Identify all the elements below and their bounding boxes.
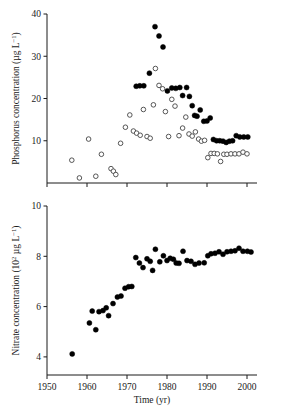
data-point-filled-circle	[165, 88, 170, 93]
x-tick-label: 1970	[118, 382, 137, 392]
data-point-open-circle	[123, 125, 128, 130]
y-tick-label: 8	[36, 252, 41, 262]
phosphorus-panel: 10203040Phosphorus concentration (µg L−1…	[10, 9, 257, 187]
data-point-filled-circle	[111, 301, 116, 306]
data-point-filled-circle	[150, 268, 155, 273]
data-point-filled-circle	[104, 305, 109, 310]
data-point-filled-circle	[141, 83, 146, 88]
y-tick-label: 10	[32, 136, 42, 146]
data-point-filled-circle	[197, 261, 202, 266]
data-point-open-circle	[218, 159, 223, 164]
y-axis-title-mid: µg L	[11, 236, 21, 257]
data-point-open-circle	[138, 133, 143, 138]
data-point-open-circle	[177, 133, 182, 138]
data-point-filled-circle	[148, 259, 153, 264]
data-point-filled-circle	[106, 313, 111, 318]
series-open-circle	[70, 66, 250, 180]
data-point-filled-circle	[208, 115, 213, 120]
data-point-filled-circle	[87, 320, 92, 325]
y-tick-label: 20	[32, 94, 42, 104]
data-point-open-circle	[70, 158, 75, 163]
data-point-open-circle	[190, 134, 195, 139]
data-point-filled-circle	[119, 294, 124, 299]
data-point-open-circle	[163, 109, 168, 114]
data-point-open-circle	[193, 130, 198, 135]
data-point-filled-circle	[202, 260, 207, 265]
data-point-open-circle	[170, 97, 175, 102]
data-point-filled-circle	[177, 261, 182, 266]
data-point-open-circle	[86, 137, 91, 142]
y-axis-title-tail: )	[11, 226, 22, 229]
y-axis-title-tail: )	[11, 32, 22, 35]
data-point-filled-circle	[230, 138, 235, 143]
x-axis-title: Time (yr)	[134, 395, 170, 406]
data-point-filled-circle	[184, 85, 189, 90]
data-point-open-circle	[215, 152, 220, 157]
data-point-filled-circle	[181, 249, 186, 254]
x-tick-label: 2000	[238, 382, 257, 392]
data-point-open-circle	[128, 113, 133, 118]
data-point-open-circle	[173, 104, 178, 109]
data-point-open-circle	[180, 126, 185, 131]
y-axis-title: Nitrate concentration (102 µg L−1)	[10, 226, 22, 356]
data-point-filled-circle	[187, 94, 192, 99]
two-panel-scatter-figure: 10203040Phosphorus concentration (µg L−1…	[0, 0, 286, 420]
y-tick-label: 6	[36, 302, 41, 312]
data-point-filled-circle	[161, 44, 166, 49]
data-point-filled-circle	[180, 93, 185, 98]
data-point-open-circle	[148, 136, 153, 141]
data-point-open-circle	[206, 155, 211, 160]
data-point-filled-circle	[141, 265, 146, 270]
data-point-filled-circle	[129, 284, 134, 289]
x-tick-label: 1950	[38, 382, 57, 392]
data-point-filled-circle	[157, 33, 162, 38]
data-point-filled-circle	[90, 309, 95, 314]
data-point-open-circle	[245, 152, 250, 157]
data-point-filled-circle	[137, 261, 142, 266]
y-axis-title: Phosphorus concentration (µg L−1)	[10, 32, 22, 165]
series-filled-circle	[70, 246, 254, 357]
y-tick-label: 30	[32, 52, 42, 62]
data-point-open-circle	[94, 174, 99, 179]
data-point-open-circle	[160, 86, 165, 91]
data-point-filled-circle	[133, 255, 138, 260]
y-axis-title-superscript: −1	[10, 35, 17, 42]
data-point-open-circle	[202, 138, 207, 143]
data-point-filled-circle	[70, 351, 75, 356]
data-point-open-circle	[151, 103, 156, 108]
nitrate-panel: 46810195019601970198019902000Nitrate con…	[10, 201, 257, 406]
data-point-open-circle	[166, 134, 171, 139]
data-point-filled-circle	[153, 247, 158, 252]
data-point-open-circle	[184, 115, 189, 120]
x-tick-label: 1960	[78, 382, 97, 392]
data-point-filled-circle	[195, 114, 200, 119]
x-tick-label: 1990	[198, 382, 217, 392]
series-filled-circle	[134, 24, 251, 145]
data-point-filled-circle	[157, 259, 162, 264]
y-tick-label: 40	[32, 9, 42, 19]
data-point-open-circle	[77, 176, 82, 181]
y-axis-title-lead: Nitrate concentration (10	[11, 260, 22, 356]
data-point-filled-circle	[249, 250, 254, 255]
figure-container: 10203040Phosphorus concentration (µg L−1…	[0, 0, 286, 420]
y-axis-title-main: Phosphorus concentration (µg L	[11, 42, 22, 165]
data-point-filled-circle	[153, 24, 158, 29]
data-point-filled-circle	[161, 253, 166, 258]
data-point-filled-circle	[147, 71, 152, 76]
data-point-open-circle	[141, 107, 146, 112]
data-point-open-circle	[114, 172, 119, 177]
data-point-filled-circle	[177, 85, 182, 90]
y-tick-label: 4	[36, 352, 41, 362]
data-point-filled-circle	[93, 327, 98, 332]
data-point-open-circle	[153, 66, 158, 71]
y-axis-title-superscript: −1	[10, 229, 17, 236]
data-point-filled-circle	[190, 103, 195, 108]
data-point-open-circle	[99, 152, 104, 157]
data-point-open-circle	[118, 141, 123, 146]
data-point-filled-circle	[198, 107, 203, 112]
y-tick-label: 10	[32, 201, 42, 211]
data-point-filled-circle	[245, 134, 250, 139]
x-tick-label: 1980	[158, 382, 177, 392]
